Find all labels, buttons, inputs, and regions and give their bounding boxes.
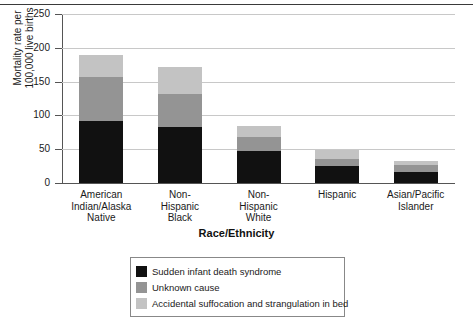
bar-segment: [237, 126, 281, 137]
y-tick-mark: [55, 149, 62, 150]
gridline: [62, 14, 455, 15]
plot-area: [62, 14, 455, 184]
bar-segment: [158, 127, 202, 183]
bar-segment: [158, 67, 202, 93]
bar-segment: [79, 55, 123, 77]
x-tick-label-line: White: [211, 212, 307, 224]
legend-label: Accidental suffocation and strangulation…: [152, 298, 348, 309]
y-tick-label: 50: [0, 144, 50, 154]
x-tick-label-line: Asian/Pacific: [368, 189, 464, 201]
gridline: [62, 48, 455, 49]
bar-segment: [315, 150, 359, 159]
legend-item: Unknown cause: [136, 279, 338, 295]
legend-swatch: [136, 266, 147, 277]
y-tick-mark: [55, 48, 62, 49]
legend-swatch: [136, 282, 147, 293]
bar-segment: [79, 77, 123, 122]
y-tick-mark: [55, 115, 62, 116]
x-axis-line: [62, 183, 455, 184]
x-axis-title: Race/Ethnicity: [0, 227, 473, 239]
y-tick-label: 150: [0, 77, 50, 87]
bar-stack: [394, 161, 438, 183]
y-tick-mark: [55, 14, 62, 15]
bar-segment: [315, 166, 359, 183]
x-tick-label: Asian/PacificIslander: [368, 189, 464, 212]
y-tick-label: 0: [0, 178, 50, 188]
legend-item: Accidental suffocation and strangulation…: [136, 295, 338, 311]
y-tick-label: 250: [0, 9, 50, 19]
bar-segment: [315, 159, 359, 166]
legend-item: Sudden infant death syndrome: [136, 263, 338, 279]
bar-segment: [394, 172, 438, 183]
y-tick-label: 100: [0, 110, 50, 120]
x-tick-label-line: Hispanic: [211, 201, 307, 213]
bar-segment: [158, 94, 202, 127]
bar-stack: [79, 55, 123, 183]
bar-stack: [158, 67, 202, 183]
y-tick-mark: [55, 183, 62, 184]
bar-segment: [237, 151, 281, 183]
y-tick-mark: [55, 82, 62, 83]
stacked-bar-chart-figure: Mortality rate per 100,000 live births 0…: [0, 0, 473, 321]
y-axis-line: [62, 14, 63, 184]
bar-segment: [79, 121, 123, 183]
legend-label: Unknown cause: [152, 282, 220, 293]
legend-label: Sudden infant death syndrome: [152, 266, 281, 277]
x-tick-label-line: Islander: [368, 201, 464, 213]
bar-segment: [237, 137, 281, 151]
bar-stack: [315, 150, 359, 183]
y-tick-label: 200: [0, 43, 50, 53]
legend-swatch: [136, 298, 147, 309]
legend-box: Sudden infant death syndromeUnknown caus…: [130, 257, 345, 317]
bar-stack: [237, 126, 281, 183]
